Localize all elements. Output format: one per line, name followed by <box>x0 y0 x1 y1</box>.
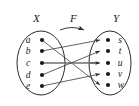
codomain-dot-u <box>106 61 110 65</box>
domain-set-label: X <box>32 12 41 24</box>
domain-dot-c <box>40 61 44 65</box>
domain-label-b: b <box>26 46 31 56</box>
domain-label-d: d <box>26 70 31 80</box>
domain-dot-a <box>40 38 44 42</box>
function-label: F <box>69 12 77 24</box>
domain-dot-e <box>40 84 44 88</box>
codomain-dot-v <box>106 72 110 76</box>
codomain-label-s: s <box>118 35 122 45</box>
codomain-dot-t <box>106 49 110 53</box>
codomain-dot-w <box>106 83 110 87</box>
domain-dot-d <box>40 73 44 77</box>
codomain-label-u: u <box>118 58 123 68</box>
codomain-label-t: t <box>119 46 122 56</box>
domain-dot-b <box>40 49 44 53</box>
codomain-set-label: Y <box>113 12 121 24</box>
domain-label-a: a <box>26 35 31 45</box>
edge-e-to-v <box>42 74 100 86</box>
domain-label-e: e <box>26 81 30 91</box>
codomain-dot-s <box>106 38 110 42</box>
codomain-label-w: w <box>118 80 125 90</box>
function-arrow-diagram: X Y F a b c d e s t <box>0 0 139 106</box>
domain-label-c: c <box>26 58 31 68</box>
codomain-label-v: v <box>118 69 123 79</box>
function-arrow-icon <box>60 28 84 31</box>
